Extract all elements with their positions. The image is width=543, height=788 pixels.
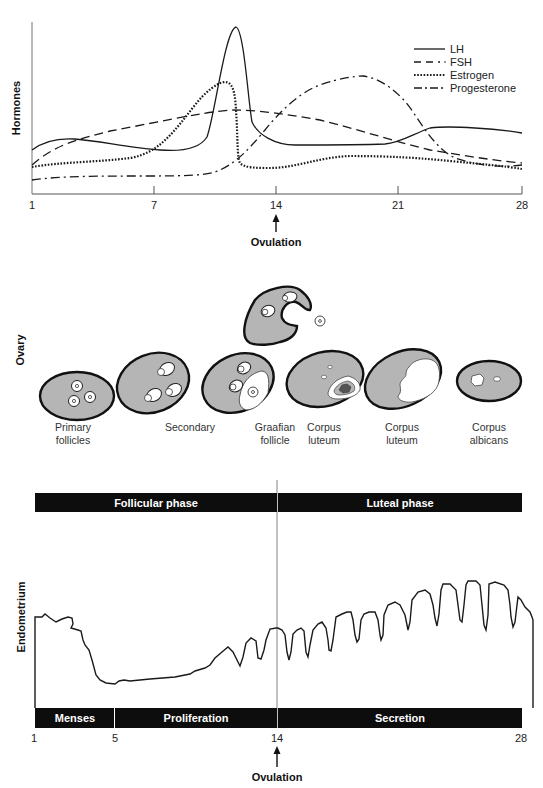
ovulation-arrow-icon [274, 746, 281, 767]
tick-21: 21 [392, 199, 404, 211]
tick-14: 14 [270, 199, 282, 211]
legend-item-progesterone: Progesterone [414, 82, 516, 94]
stage-label-line2: albicans [470, 434, 509, 446]
legend: LH FSH Estrogen Progesterone [414, 43, 516, 94]
endometrium-ylabel: Endometrium [15, 581, 27, 652]
ovary-stage-labels: Primary follicles Secondary Graafian fol… [55, 421, 508, 446]
fsh-curve [32, 110, 522, 165]
ovulation-label: Ovulation [251, 236, 302, 248]
lh-curve [32, 27, 522, 150]
hormones-panel: Hormones 1 7 14 21 28 Ovulation [10, 22, 528, 248]
tick-1: 1 [31, 732, 37, 744]
ovary-corpus-luteum-early [280, 343, 369, 415]
svg-text:LH: LH [450, 43, 464, 55]
progesterone-curve [32, 76, 522, 180]
luteal-phase-label: Luteal phase [366, 497, 433, 509]
ovary-ovulating [244, 287, 325, 345]
endometrium-panel: Follicular phase Luteal phase Endometriu… [15, 480, 533, 783]
menses-label: Menses [55, 712, 95, 724]
ovary-corpus-albicans [457, 361, 521, 401]
stage-label-line2: luteum [308, 434, 340, 446]
ovulation-arrow-icon [273, 214, 280, 232]
ovary-ylabel: Ovary [14, 334, 26, 366]
legend-item-fsh: FSH [414, 56, 472, 68]
secretion-label: Secretion [375, 712, 425, 724]
tick-7: 7 [151, 199, 157, 211]
ovary-corpus-luteum-mature [355, 338, 450, 421]
endometrium-curve [35, 581, 533, 708]
stage-label-line1: Primary [55, 421, 92, 433]
tick-5: 5 [112, 732, 118, 744]
svg-text:FSH: FSH [450, 56, 472, 68]
legend-item-estrogen: Estrogen [414, 69, 494, 81]
stage-label-line1: Secondary [165, 421, 216, 433]
ovary-panel: Ovary [14, 287, 521, 446]
ovulation-label: Ovulation [252, 771, 303, 783]
estrogen-curve [32, 82, 522, 169]
tick-28: 28 [515, 732, 527, 744]
hormones-ylabel: Hormones [10, 81, 22, 135]
follicular-phase-label: Follicular phase [114, 497, 198, 509]
stage-label-line2: follicles [56, 434, 90, 446]
stage-label-line2: luteum [386, 434, 418, 446]
proliferation-label: Proliferation [164, 712, 229, 724]
tick-28: 28 [516, 199, 528, 211]
ovary-graafian-follicle [193, 342, 284, 424]
stage-label-line1: Corpus [385, 421, 419, 433]
stage-label-line1: Corpus [307, 421, 341, 433]
released-ovum-icon [315, 316, 325, 326]
tick-1: 1 [29, 199, 35, 211]
menstrual-cycle-diagram: Hormones 1 7 14 21 28 Ovulation [0, 0, 543, 788]
tick-14: 14 [271, 732, 283, 744]
stage-label-line1: Corpus [472, 421, 506, 433]
ovary-primary-follicles [40, 372, 114, 420]
svg-text:Estrogen: Estrogen [450, 69, 494, 81]
stage-label-line1: Graafian [255, 421, 295, 433]
stage-label-line2: follicle [260, 434, 289, 446]
hormones-x-ticks [154, 186, 522, 194]
legend-item-lh: LH [414, 43, 464, 55]
ovary-secondary [108, 342, 198, 423]
svg-text:Progesterone: Progesterone [450, 82, 516, 94]
